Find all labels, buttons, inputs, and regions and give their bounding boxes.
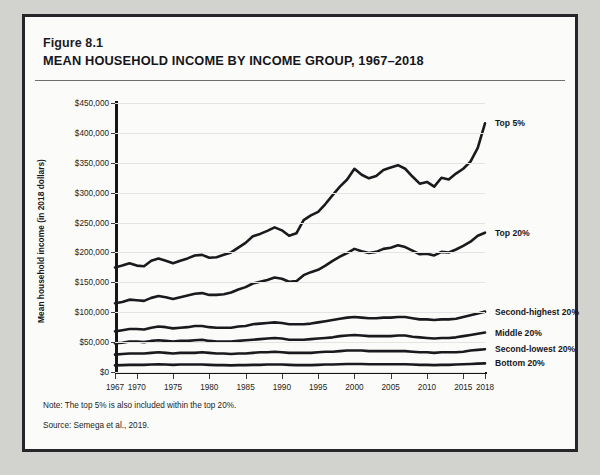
x-axis-tick-label: 2000 bbox=[345, 383, 363, 392]
series-lines bbox=[115, 103, 485, 372]
x-axis-tick-label: 1975 bbox=[164, 383, 182, 392]
x-axis-tick-label: 1967 bbox=[106, 383, 124, 392]
gridline bbox=[115, 133, 485, 134]
gridline bbox=[115, 282, 485, 283]
figure-inner: Figure 8.1 MEAN HOUSEHOLD INCOME BY INCO… bbox=[25, 17, 575, 449]
y-axis-tick-mark bbox=[111, 312, 115, 313]
x-axis-tick-label: 1985 bbox=[236, 383, 254, 392]
y-axis-tick-label: $50,000 bbox=[79, 338, 109, 347]
chart-source: Source: Semega et al., 2019. bbox=[43, 421, 149, 430]
series-label-middle-20: Middle 20% bbox=[495, 328, 542, 338]
series-label-bottom-20: Bottom 20% bbox=[495, 358, 545, 368]
y-axis-tick-mark bbox=[111, 163, 115, 164]
series-line bbox=[115, 349, 485, 354]
x-axis-tick-mark bbox=[115, 374, 116, 379]
series-line bbox=[115, 233, 485, 304]
page-background: Figure 8.1 MEAN HOUSEHOLD INCOME BY INCO… bbox=[0, 0, 600, 475]
series-line bbox=[115, 312, 485, 332]
y-axis-tick-label: $250,000 bbox=[75, 218, 109, 227]
x-axis-tick-label: 1970 bbox=[128, 383, 146, 392]
gridline bbox=[115, 103, 485, 104]
y-axis-tick-mark bbox=[111, 252, 115, 253]
y-axis-tick-mark bbox=[111, 223, 115, 224]
figure-title: MEAN HOUSEHOLD INCOME BY INCOME GROUP, 1… bbox=[43, 53, 424, 68]
y-axis-tick-label: $0 bbox=[100, 368, 109, 377]
x-axis-tick-mark bbox=[137, 374, 138, 379]
series-line bbox=[115, 363, 485, 365]
gridline bbox=[115, 312, 485, 313]
gridline bbox=[115, 223, 485, 224]
chart-container: Mean household income (in 2018 dollars) … bbox=[35, 91, 569, 391]
y-axis-tick-label: $400,000 bbox=[75, 128, 109, 137]
y-axis-tick-mark bbox=[111, 103, 115, 104]
series-line bbox=[115, 123, 485, 267]
gridline bbox=[115, 342, 485, 343]
gridline bbox=[115, 372, 485, 373]
x-axis-tick-label: 2018 bbox=[476, 383, 494, 392]
y-axis-tick-mark bbox=[111, 133, 115, 134]
x-axis-tick-mark bbox=[463, 374, 464, 379]
title-divider bbox=[35, 80, 565, 81]
x-axis-tick-mark bbox=[391, 374, 392, 379]
x-axis-tick-mark bbox=[485, 374, 486, 379]
y-axis-tick-label: $450,000 bbox=[75, 99, 109, 108]
series-label-top-5: Top 5% bbox=[495, 118, 525, 128]
y-axis-tick-label: $300,000 bbox=[75, 188, 109, 197]
y-axis-tick-label: $350,000 bbox=[75, 158, 109, 167]
x-axis-tick-mark bbox=[427, 374, 428, 379]
series-label-top-20: Top 20% bbox=[495, 228, 530, 238]
y-axis-tick-mark bbox=[111, 372, 115, 373]
x-axis-tick-mark bbox=[354, 374, 355, 379]
y-axis-tick-label: $200,000 bbox=[75, 248, 109, 257]
y-axis-tick-mark bbox=[111, 282, 115, 283]
x-axis-tick-label: 1980 bbox=[200, 383, 218, 392]
x-axis-tick-label: 2010 bbox=[418, 383, 436, 392]
gridline bbox=[115, 163, 485, 164]
gridline bbox=[115, 252, 485, 253]
y-axis-tick-mark bbox=[111, 342, 115, 343]
y-axis-tick-label: $150,000 bbox=[75, 278, 109, 287]
x-axis-tick-mark bbox=[209, 374, 210, 379]
series-label-second-lowest-20: Second-lowest 20% bbox=[495, 344, 575, 354]
x-axis-tick-label: 2015 bbox=[454, 383, 472, 392]
figure-number: Figure 8.1 bbox=[43, 36, 103, 50]
x-axis-tick-mark bbox=[246, 374, 247, 379]
x-axis-tick-mark bbox=[282, 374, 283, 379]
plot-area: $0$50,000$100,000$150,000$200,000$250,00… bbox=[115, 103, 485, 372]
series-label-second-highest-20: Second-highest 20% bbox=[495, 307, 579, 317]
y-axis-title: Mean household income (in 2018 dollars) bbox=[36, 159, 46, 323]
x-axis-tick-label: 1990 bbox=[273, 383, 291, 392]
x-axis-tick-mark bbox=[173, 374, 174, 379]
figure-card: Figure 8.1 MEAN HOUSEHOLD INCOME BY INCO… bbox=[22, 14, 578, 452]
y-axis-tick-mark bbox=[111, 193, 115, 194]
gridline bbox=[115, 193, 485, 194]
x-axis-tick-label: 2005 bbox=[382, 383, 400, 392]
x-axis-tick-mark bbox=[318, 374, 319, 379]
chart-note: Note: The top 5% is also included within… bbox=[43, 401, 236, 410]
x-axis-tick-label: 1995 bbox=[309, 383, 327, 392]
y-axis-tick-label: $100,000 bbox=[75, 308, 109, 317]
